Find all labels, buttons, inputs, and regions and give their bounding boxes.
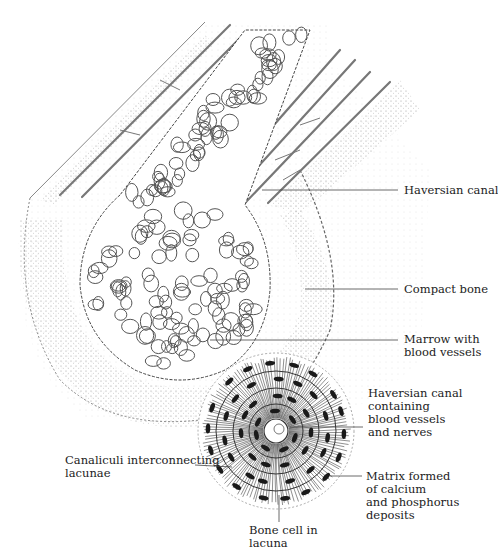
label-haversian-canal-containing: Haversian canal containing blood vessels… <box>368 387 462 439</box>
label-compact-bone: Compact bone <box>404 283 488 296</box>
osteon-cross-section <box>198 353 354 509</box>
label-bone-cell: Bone cell in lacuna <box>249 524 318 550</box>
label-haversian-canal: Haversian canal <box>404 184 498 197</box>
label-marrow: Marrow with blood vessels <box>404 333 481 359</box>
label-canaliculi: Canaliculi interconnecting lacunae <box>65 454 220 480</box>
label-matrix: Matrix formed of calcium and phosphorus … <box>366 470 459 522</box>
